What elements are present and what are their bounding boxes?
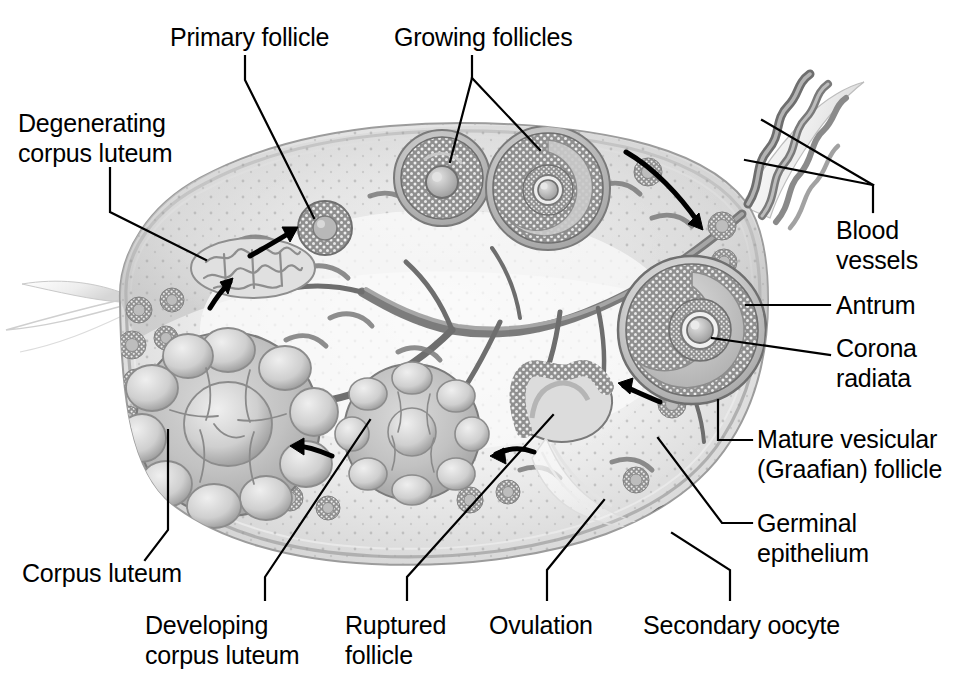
ovarian-ligament-left: [22, 281, 120, 302]
label-line-2: vessels: [836, 246, 918, 274]
label-line-2: radiata: [836, 364, 911, 392]
leader-secondary-oocyte: [672, 533, 730, 600]
growing-follicle-1: [394, 130, 490, 226]
label-line-2: epithelium: [757, 539, 869, 567]
label-line-1: Degenerating: [18, 109, 166, 137]
label-line-1: Blood: [836, 216, 899, 244]
label-line-1: Antrum: [836, 291, 915, 319]
label-mature-vesicular-graafian-follicle: Mature vesicular(Graafian) follicle: [757, 424, 942, 484]
label-corpus-luteum: Corpus luteum: [22, 558, 182, 588]
label-developing-corpus-luteum: Developingcorpus luteum: [145, 610, 299, 670]
label-line-2: corpus luteum: [18, 139, 172, 167]
label-ruptured-follicle: Rupturedfollicle: [345, 610, 446, 670]
label-line-1: Growing follicles: [394, 23, 573, 51]
label-line-1: Germinal: [757, 509, 857, 537]
label-antrum: Antrum: [836, 290, 915, 320]
primary-follicle-body: [298, 201, 352, 255]
label-line-1: Ruptured: [345, 611, 446, 639]
label-line-1: Mature vesicular: [757, 425, 937, 453]
label-growing-follicles: Growing follicles: [394, 22, 573, 52]
label-corona-radiata: Coronaradiata: [836, 333, 917, 393]
label-ovulation: Ovulation: [489, 610, 593, 640]
degenerating-corpus-luteum-body: [191, 238, 315, 298]
ovarian-hilum: [742, 82, 864, 218]
graafian-follicle-body: [618, 256, 766, 404]
ovary-diagram-page: Degeneratingcorpus luteum Primary follic…: [0, 0, 967, 686]
label-degenerating-corpus-luteum: Degeneratingcorpus luteum: [18, 108, 172, 168]
label-primary-follicle: Primary follicle: [170, 22, 329, 52]
label-line-1: Developing: [145, 611, 268, 639]
label-line-1: Corona: [836, 334, 917, 362]
label-germinal-epithelium: Germinalepithelium: [757, 508, 869, 568]
developing-corpus-luteum-body: [335, 362, 489, 505]
label-line-1: Ovulation: [489, 611, 593, 639]
label-line-2: (Graafian) follicle: [757, 455, 942, 483]
growing-follicle-2: [486, 126, 610, 250]
label-blood-vessels: Bloodvessels: [836, 215, 918, 275]
label-secondary-oocyte: Secondary oocyte: [643, 610, 840, 640]
label-line-2: follicle: [345, 641, 413, 669]
label-line-1: Secondary oocyte: [643, 611, 840, 639]
label-line-1: Corpus luteum: [22, 559, 182, 587]
label-line-1: Primary follicle: [170, 23, 329, 51]
label-line-2: corpus luteum: [145, 641, 299, 669]
